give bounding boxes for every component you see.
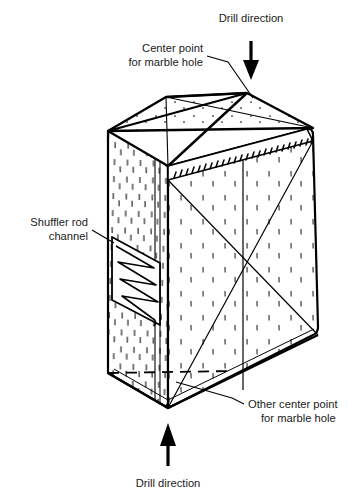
label-other-center-point-line2: for marble hole [261, 412, 336, 424]
technical-diagram-canvas: Drill direction Center point for marble … [0, 0, 348, 501]
label-center-point-line2: for marble hole [128, 56, 203, 68]
center-point-markers [165, 403, 170, 408]
bottom-center-point-marker [165, 403, 170, 408]
label-center-point-line1: Center point [142, 42, 204, 54]
label-drill-direction-bottom: Drill direction [136, 477, 201, 489]
label-drill-direction-top: Drill direction [219, 12, 284, 24]
label-shuffler-rod-channel-line2: channel [49, 230, 88, 242]
label-other-center-point-line1: Other center point [248, 398, 338, 410]
label-shuffler-rod-channel-line1: Shuffler rod [30, 216, 88, 228]
